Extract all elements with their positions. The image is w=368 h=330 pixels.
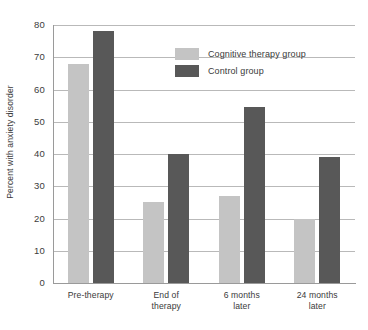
y-axis-title: Percent with anxiety disorder: [0, 0, 20, 283]
bar-chart: Percent with anxiety disorder 0102030405…: [0, 0, 368, 330]
bar: [143, 202, 164, 283]
legend-item-cognitive-therapy-group: Cognitive therapy group: [175, 45, 306, 62]
legend-item-control-group: Control group: [175, 62, 306, 79]
y-axis-tick-label: 30: [5, 180, 45, 191]
legend: Cognitive therapy group Control group: [175, 45, 306, 79]
bar: [319, 157, 340, 283]
legend-swatch-icon-cognitive-therapy-group: [175, 48, 199, 60]
bar: [219, 196, 240, 283]
x-axis-category-label: 24 monthslater: [280, 290, 356, 312]
y-axis-tick-label: 70: [5, 51, 45, 62]
x-axis-line: [53, 283, 356, 284]
bar: [244, 107, 265, 283]
y-axis-tick-label: 50: [5, 116, 45, 127]
bar: [168, 154, 189, 283]
y-axis-tick-label: 10: [5, 245, 45, 256]
x-axis-category-label: End oftherapy: [129, 290, 205, 312]
x-axis-category-label: 6 monthslater: [204, 290, 280, 312]
bar: [93, 31, 114, 283]
y-axis-tick-label: 40: [5, 148, 45, 159]
y-axis-tick-label: 0: [5, 277, 45, 288]
y-axis-tick-label: 80: [5, 19, 45, 30]
bar: [68, 64, 89, 283]
legend-swatch-icon-control-group: [175, 65, 199, 77]
legend-label-cognitive-therapy-group: Cognitive therapy group: [208, 49, 306, 59]
y-axis-tick-label: 20: [5, 213, 45, 224]
bar: [294, 219, 315, 284]
legend-label-control-group: Control group: [208, 66, 264, 76]
y-axis-tick-label: 60: [5, 84, 45, 95]
x-axis-category-label: Pre-therapy: [53, 290, 129, 301]
